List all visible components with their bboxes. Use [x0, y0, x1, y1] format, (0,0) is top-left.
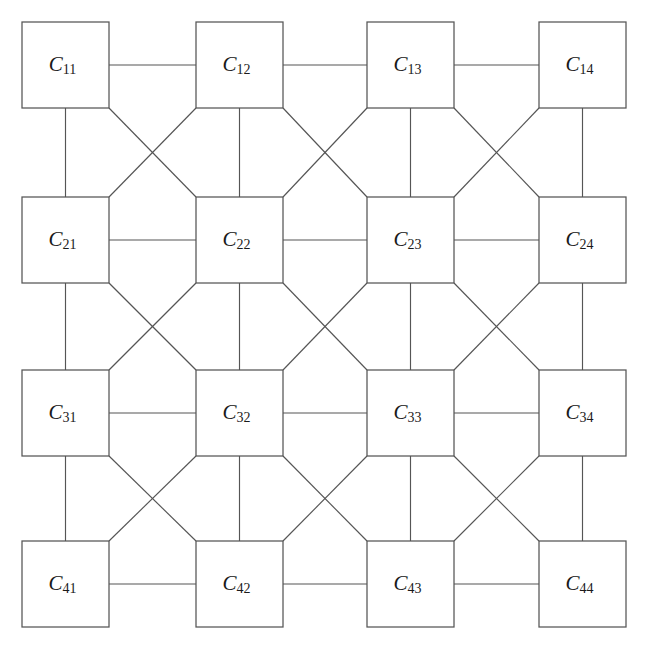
cell-grid-diagram: C11C12C13C14C21C22C23C24C31C32C33C34C41C… — [0, 0, 647, 653]
cell-label-base: C — [48, 400, 63, 424]
cell-label-subscript: 11 — [63, 62, 76, 77]
cell-node-c23[interactable]: C23 — [367, 197, 454, 283]
edge-layer — [66, 65, 583, 584]
cell-node-c32[interactable]: C32 — [196, 370, 283, 456]
cell-node-c12[interactable]: C12 — [196, 22, 283, 108]
cell-label-base: C — [49, 52, 64, 76]
cell-label-subscript: 21 — [63, 237, 77, 252]
cell-label-subscript: 43 — [408, 581, 422, 596]
cell-label-base: C — [565, 571, 580, 595]
cell-node-c21[interactable]: C21 — [22, 197, 109, 283]
cell-node-c42[interactable]: C42 — [196, 541, 283, 627]
cell-label-subscript: 42 — [237, 581, 251, 596]
cell-label-subscript: 32 — [237, 410, 251, 425]
cell-label-base: C — [48, 227, 63, 251]
cell-node-c33[interactable]: C33 — [367, 370, 454, 456]
cell-node-c14[interactable]: C14 — [539, 22, 626, 108]
cell-label-subscript: 24 — [580, 237, 594, 252]
cell-label-subscript: 33 — [408, 410, 422, 425]
cell-label-base: C — [565, 52, 580, 76]
cell-label-subscript: 22 — [237, 237, 251, 252]
cell-node-c24[interactable]: C24 — [539, 197, 626, 283]
cell-node-c34[interactable]: C34 — [539, 370, 626, 456]
cell-node-c44[interactable]: C44 — [539, 541, 626, 627]
cell-label-base: C — [565, 400, 580, 424]
cell-label-base: C — [48, 571, 63, 595]
cell-label-base: C — [393, 571, 408, 595]
cell-label-base: C — [393, 227, 408, 251]
cell-label-subscript: 34 — [580, 410, 594, 425]
cell-node-c11[interactable]: C11 — [22, 22, 109, 108]
diagram-canvas: C11C12C13C14C21C22C23C24C31C32C33C34C41C… — [0, 0, 647, 653]
cell-label-base: C — [222, 571, 237, 595]
cell-label-base: C — [222, 400, 237, 424]
cell-label-base: C — [393, 400, 408, 424]
cell-node-c43[interactable]: C43 — [367, 541, 454, 627]
cell-label-subscript: 12 — [237, 62, 251, 77]
cell-label-base: C — [393, 52, 408, 76]
cell-label-subscript: 31 — [63, 410, 77, 425]
cell-node-c22[interactable]: C22 — [196, 197, 283, 283]
node-layer: C11C12C13C14C21C22C23C24C31C32C33C34C41C… — [22, 22, 626, 627]
cell-node-c13[interactable]: C13 — [367, 22, 454, 108]
cell-label-subscript: 41 — [63, 581, 77, 596]
cell-label-base: C — [222, 227, 237, 251]
cell-label-subscript: 23 — [408, 237, 422, 252]
cell-label-base: C — [565, 227, 580, 251]
cell-label-subscript: 44 — [580, 581, 594, 596]
cell-label-base: C — [222, 52, 237, 76]
cell-label-subscript: 14 — [580, 62, 594, 77]
cell-node-c41[interactable]: C41 — [22, 541, 109, 627]
cell-node-c31[interactable]: C31 — [22, 370, 109, 456]
cell-label-subscript: 13 — [408, 62, 422, 77]
